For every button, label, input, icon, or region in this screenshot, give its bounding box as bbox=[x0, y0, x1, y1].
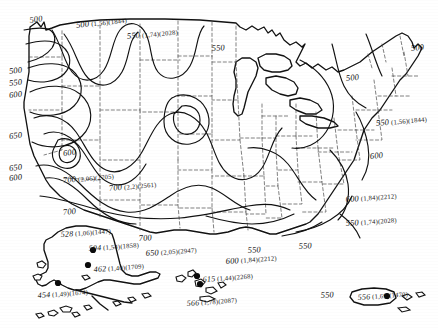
station-label-s2-paren-1: (1,54) bbox=[101, 243, 120, 251]
contour-value-c09: 600 bbox=[9, 89, 23, 100]
contour-label-c21-paren-2: (2212) bbox=[258, 254, 277, 262]
contour-value-c16: 700 bbox=[62, 174, 76, 185]
contour-label-c20-paren-1: (2,05) bbox=[159, 248, 178, 256]
contour-label-c09: 600 bbox=[8, 84, 23, 101]
contour-label-c24-paren-1: (1,74) bbox=[359, 218, 378, 226]
contour-value-c15: 600 bbox=[63, 147, 77, 158]
station-value-s4: 454 bbox=[37, 290, 50, 300]
contour-label-c02-paren-1: (1,56) bbox=[89, 19, 109, 28]
contour-label-c14: 600 bbox=[8, 167, 23, 184]
contour-label-c10-paren-1: (1,56) bbox=[389, 117, 409, 126]
contour-label-c05: 500 bbox=[410, 37, 425, 54]
station-value-s2: 504 bbox=[88, 243, 101, 253]
contour-label-c02-paren-2: (1844) bbox=[108, 17, 127, 26]
contour-map-figure: 500500 (1,56)(1844)550 (1,74)(2028)55050… bbox=[0, 0, 438, 328]
contour-label-c21-paren-1: (1,84) bbox=[239, 256, 258, 264]
station-label-s7-paren-1: (1,69) bbox=[370, 292, 389, 300]
contour-label-c19: 700 bbox=[138, 227, 152, 244]
contour-label-c03-paren-1: (1,74) bbox=[140, 30, 160, 39]
contour-label-c10-paren-2: (1844) bbox=[408, 116, 427, 125]
contour-value-c23: 550 bbox=[298, 240, 312, 251]
station-label-s1-paren-2: (1447) bbox=[92, 227, 111, 235]
contour-label-c17-paren-2: (2561) bbox=[137, 181, 156, 190]
station-value-s3: 462 bbox=[93, 264, 106, 274]
contour-value-c24: 550 bbox=[345, 217, 359, 228]
station-label-s3-paren-2: (1709) bbox=[125, 262, 144, 270]
contour-value-c17: 700 bbox=[108, 182, 122, 193]
station-label-s2-paren-2: (1858) bbox=[120, 241, 139, 249]
station-value-s6: 566 bbox=[186, 298, 199, 308]
contour-value-c19: 700 bbox=[138, 232, 152, 243]
station-value-s1: 528 bbox=[60, 229, 73, 239]
contour-label-c20-paren-2: (2947) bbox=[178, 246, 197, 254]
contour-value-c18: 700 bbox=[62, 206, 76, 217]
station-label-s1-paren-1: (1,06) bbox=[73, 229, 92, 237]
station-dot-s3 bbox=[85, 262, 91, 268]
contour-label-c18: 700 bbox=[62, 201, 77, 218]
contour-label-c03-paren-2: (2028) bbox=[159, 29, 178, 38]
station-dot-s5 bbox=[194, 273, 200, 279]
contour-label-c23: 550 bbox=[298, 235, 312, 252]
contour-value-c01: 500 bbox=[29, 13, 44, 25]
contour-value-c02: 500 bbox=[76, 19, 90, 30]
station-value-s5: 615 bbox=[202, 274, 215, 284]
station-label-s7-paren-2: (1470) bbox=[389, 290, 408, 298]
contour-value-c20: 650 bbox=[145, 247, 159, 258]
contour-label-c06: 500 bbox=[345, 67, 360, 84]
station-label-s6-paren-1: (1,78) bbox=[199, 298, 218, 306]
contour-value-c06: 500 bbox=[345, 72, 359, 83]
contour-label-c24-paren-2: (2028) bbox=[378, 216, 397, 224]
contour-label-c22: 550 bbox=[247, 239, 261, 256]
station-value-s7: 556 bbox=[357, 292, 370, 302]
station-label-s3-paren-1: (1,40) bbox=[106, 264, 125, 272]
contour-label-c04: 550 bbox=[211, 37, 225, 54]
contour-label-c12: 600 bbox=[369, 145, 384, 162]
station-label-s4-paren-1: (1,49) bbox=[50, 290, 69, 298]
contour-value-c21: 600 bbox=[225, 255, 239, 266]
contour-value-c22: 550 bbox=[247, 244, 261, 255]
station-label-s5-paren-2: (2268) bbox=[234, 272, 253, 280]
contour-value-c05: 500 bbox=[410, 42, 424, 53]
contour-value-c14: 600 bbox=[9, 172, 23, 183]
contour-value-c25: 600 bbox=[345, 193, 359, 204]
contour-label-c17-paren-1: (2,2) bbox=[122, 182, 138, 190]
contour-label-c16-paren-1: (2,06) bbox=[76, 174, 96, 183]
contour-value-c11: 650 bbox=[9, 130, 23, 141]
station-label-s4-paren-2: (1674) bbox=[69, 288, 88, 296]
contour-value-c03: 550 bbox=[126, 30, 140, 41]
contour-label-c25-paren-1: (1,84) bbox=[359, 194, 378, 202]
station-label-s5-paren-1: (1,44) bbox=[215, 274, 234, 282]
contour-value-c12: 600 bbox=[369, 150, 383, 161]
contour-value-c10: 550 bbox=[375, 117, 389, 128]
contour-value-c26: 550 bbox=[320, 289, 334, 300]
contour-label-c15: 600 bbox=[62, 142, 77, 159]
contour-label-c11: 650 bbox=[8, 125, 23, 142]
contour-value-c04: 550 bbox=[211, 42, 225, 53]
contour-label-c25-paren-2: (2212) bbox=[378, 192, 397, 200]
contour-label-c26: 550 bbox=[320, 284, 334, 301]
contour-label-c01: 500 bbox=[28, 8, 43, 26]
station-label-s6-paren-2: (2087) bbox=[218, 296, 237, 304]
